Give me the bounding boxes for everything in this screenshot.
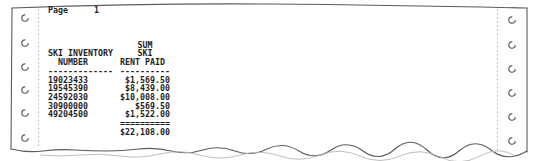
tractor-feed-hole [509,138,515,144]
tractor-feed-hole [509,17,515,23]
next-sheet-edge [40,151,517,161]
tractor-feed-hole [22,87,28,93]
tractor-feed-hole [509,42,515,48]
tractor-feed-hole [22,64,28,70]
page-header: Page 1 [48,6,178,15]
inventory-number-cell: 49204500 [48,110,116,119]
tractor-feed-hole [22,135,28,141]
total-amount: $22,108.00 [120,128,170,137]
paper-bottom-tear [11,142,527,158]
tractor-feed-hole [509,66,515,72]
tractor-feed-hole [509,90,515,96]
tractor-feed-hole [22,110,28,116]
page-number: 1 [94,6,99,15]
report-text: Page 1 SUM SKI INVENTORY SKI NUMBER RENT… [48,6,178,136]
page-label: Page [48,6,116,15]
table-body: 19023433$1,569.5019545390$8,439.00245920… [48,76,178,119]
tractor-feed-hole [22,15,28,21]
tractor-feed-hole [22,40,28,46]
continuous-form-printout: Page 1 SUM SKI INVENTORY SKI NUMBER RENT… [0,0,537,161]
tractor-feed-hole [509,114,515,120]
paper-left-edge [11,8,12,149]
total-row: $22,108.00 [48,128,178,137]
